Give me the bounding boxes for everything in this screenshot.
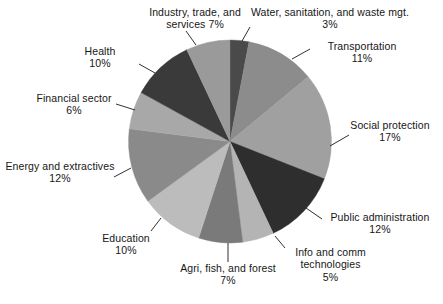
leader-line-info-comm [275, 236, 285, 248]
leader-line-education [151, 218, 161, 231]
pie-chart-canvas [0, 0, 443, 304]
leader-line-social-protection [330, 135, 349, 146]
leader-line-industry [186, 31, 196, 45]
pie-chart: Industry, trade, and services 7% Water, … [0, 0, 443, 304]
leader-line-financial [116, 104, 135, 110]
leader-line-health [139, 64, 155, 73]
leader-line-energy [114, 168, 131, 177]
pie-slices-group [128, 40, 331, 243]
leader-line-transportation [292, 49, 310, 59]
leader-line-water [242, 27, 250, 41]
leader-line-public-administration [306, 208, 322, 219]
